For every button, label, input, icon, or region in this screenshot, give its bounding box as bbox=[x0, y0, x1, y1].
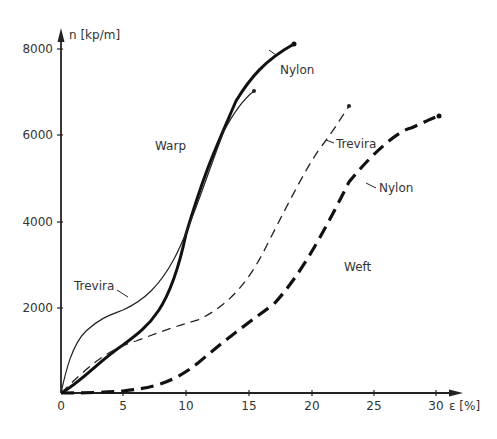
y-tick-2000: 2000 bbox=[22, 301, 53, 315]
endpoint-warp-trevira bbox=[252, 89, 256, 93]
x-tick-10: 10 bbox=[178, 399, 193, 413]
x-tick-15: 15 bbox=[241, 399, 256, 413]
leader-weft-nylon bbox=[366, 183, 376, 188]
leader-warp-nylon bbox=[269, 50, 276, 55]
y-tick-8000: 8000 bbox=[22, 42, 53, 56]
y-tick-6000: 6000 bbox=[22, 128, 53, 142]
x-tick-20: 20 bbox=[304, 399, 319, 413]
curve-weft-trevira bbox=[61, 106, 349, 393]
leader-warp-trevira bbox=[117, 290, 128, 297]
x-tick-5: 5 bbox=[119, 399, 127, 413]
curve-warp-nylon bbox=[61, 44, 294, 393]
curve-warp-trevira bbox=[61, 91, 254, 393]
y-axis-title: n [kp/m] bbox=[69, 28, 120, 42]
y-tick-4000: 4000 bbox=[22, 215, 53, 229]
endpoint-weft-nylon bbox=[437, 114, 442, 119]
curve-weft-nylon bbox=[61, 116, 439, 393]
label-warp: Warp bbox=[155, 139, 186, 153]
y-axis-arrow-icon bbox=[58, 28, 65, 42]
stress-strain-chart: 8000 6000 4000 2000 0 5 10 15 20 25 30 n… bbox=[0, 0, 497, 439]
y-axis bbox=[57, 28, 65, 393]
endpoint-weft-trevira bbox=[347, 104, 351, 108]
label-weft-trevira: Trevira bbox=[335, 137, 376, 151]
label-warp-trevira: Trevira bbox=[73, 279, 114, 293]
label-weft-nylon: Nylon bbox=[379, 181, 413, 195]
x-tick-30: 30 bbox=[428, 399, 443, 413]
label-weft: Weft bbox=[344, 260, 372, 274]
x-axis-arrow-icon bbox=[449, 390, 463, 397]
x-tick-25: 25 bbox=[366, 399, 381, 413]
leader-weft-trevira bbox=[326, 140, 334, 143]
endpoint-warp-nylon bbox=[292, 42, 297, 47]
x-axis-title: ε [%] bbox=[449, 399, 480, 413]
x-tick-0: 0 bbox=[57, 399, 65, 413]
label-warp-nylon: Nylon bbox=[280, 63, 314, 77]
